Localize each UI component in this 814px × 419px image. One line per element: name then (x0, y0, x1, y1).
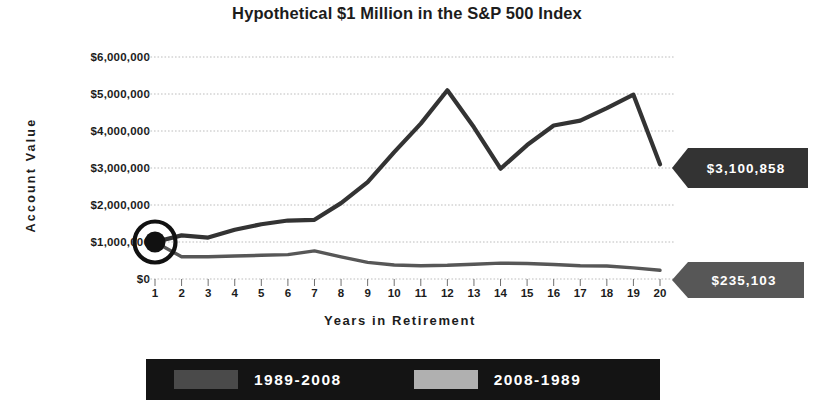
x-tick-label: 9 (353, 287, 383, 299)
legend-swatch-0 (174, 370, 238, 389)
x-tick-label: 3 (193, 287, 223, 299)
x-tick-label: 7 (299, 287, 329, 299)
x-tick-label: 12 (432, 287, 462, 299)
x-tick-label: 16 (539, 287, 569, 299)
x-tick-label: 14 (486, 287, 516, 299)
chart-container: Hypothetical $1 Million in the S&P 500 I… (0, 0, 814, 419)
legend-swatch-1 (414, 370, 478, 389)
legend-item-1: 2008-1989 (414, 359, 582, 400)
x-tick-label: 1 (140, 287, 170, 299)
data-line-1989-2008 (155, 90, 660, 242)
data-line-2008-1989 (155, 242, 660, 270)
plot-area (0, 0, 814, 419)
x-tick-label: 18 (592, 287, 622, 299)
x-tick-label: 6 (273, 287, 303, 299)
x-tick-label: 4 (220, 287, 250, 299)
x-tick-label: 2 (167, 287, 197, 299)
x-tick-label: 20 (645, 287, 675, 299)
x-tick-label: 5 (246, 287, 276, 299)
callout-high-value: $3,100,858 (672, 148, 808, 188)
x-tick-label: 11 (406, 287, 436, 299)
x-tick-label: 15 (512, 287, 542, 299)
start-marker-dot (145, 232, 166, 253)
x-tick-label: 8 (326, 287, 356, 299)
x-tick-label: 10 (379, 287, 409, 299)
x-axis-title: Years in Retirement (150, 313, 650, 328)
callout-low-value: $235,103 (672, 262, 804, 298)
x-tick-label: 13 (459, 287, 489, 299)
chart-legend: 1989-2008 2008-1989 (146, 359, 660, 400)
legend-label-0: 1989-2008 (254, 371, 342, 389)
x-tick-label: 17 (565, 287, 595, 299)
x-tick-label: 19 (618, 287, 648, 299)
legend-item-0: 1989-2008 (174, 359, 342, 400)
legend-label-1: 2008-1989 (494, 371, 582, 389)
